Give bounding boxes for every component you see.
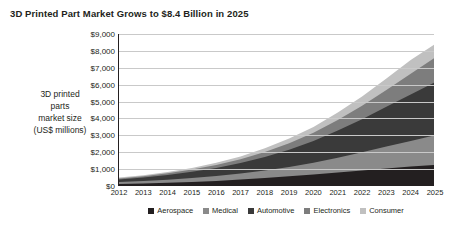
grid-line (119, 169, 434, 170)
legend-item-automotive[interactable]: Automotive (248, 206, 295, 215)
plot-area: $0$1,000$2,000$3,000$4,000$5,000$6,000$7… (118, 34, 434, 186)
x-axis-tick-label: 2025 (427, 185, 444, 197)
x-axis-tick-label: 2021 (329, 185, 346, 197)
x-axis-tick-label: 2014 (159, 185, 176, 197)
y-axis-label-line-3: market size (24, 112, 96, 124)
y-axis-tick-label: $9,000 (91, 30, 119, 39)
x-axis-tick-label: 2019 (281, 185, 298, 197)
x-axis-tick-label: 2023 (378, 185, 395, 197)
legend-label: Medical (212, 206, 238, 215)
chart-container: 3D Printed Part Market Grows to $8.4 Bil… (0, 0, 462, 242)
legend-label: Electronics (313, 206, 350, 215)
y-axis-tick-label: $3,000 (91, 131, 119, 140)
legend-swatch-icon (360, 208, 366, 214)
legend-item-medical[interactable]: Medical (203, 206, 238, 215)
x-axis-tick-label: 2020 (305, 185, 322, 197)
y-axis-tick-label: $5,000 (91, 97, 119, 106)
y-axis-label-line-2: parts (24, 100, 96, 112)
legend-swatch-icon (304, 208, 310, 214)
x-axis-tick-label: 2013 (135, 185, 152, 197)
y-axis-tick-label: $6,000 (91, 80, 119, 89)
plot-inner (119, 34, 434, 185)
grid-line (119, 68, 434, 69)
grid-line (119, 85, 434, 86)
y-axis-tick-label: $7,000 (91, 63, 119, 72)
y-axis-label-line-4: (US$ millions) (24, 124, 96, 136)
legend-item-aerospace[interactable]: Aerospace (148, 206, 193, 215)
y-axis-label: 3D printed parts market size (US$ millio… (24, 88, 96, 136)
x-axis-tick-label: 2016 (208, 185, 225, 197)
grid-line (119, 152, 434, 153)
grid-line (119, 118, 434, 119)
legend-label: Aerospace (157, 206, 193, 215)
y-axis-tick-label: $1,000 (91, 165, 119, 174)
legend-item-electronics[interactable]: Electronics (304, 206, 350, 215)
chart-title: 3D Printed Part Market Grows to $8.4 Bil… (10, 8, 249, 19)
stacked-area-series (119, 34, 434, 185)
y-axis-tick-label: $4,000 (91, 114, 119, 123)
legend-label: Automotive (257, 206, 295, 215)
x-axis-tick-label: 2024 (402, 185, 419, 197)
grid-line (119, 135, 434, 136)
y-axis-tick-label: $8,000 (91, 46, 119, 55)
y-axis-label-line-1: 3D printed (24, 88, 96, 100)
x-axis-tick-label: 2015 (184, 185, 201, 197)
x-axis-tick-label: 2017 (232, 185, 249, 197)
grid-line (119, 51, 434, 52)
grid-line (119, 34, 434, 35)
x-axis-tick-label: 2022 (354, 185, 371, 197)
legend-item-consumer[interactable]: Consumer (360, 206, 404, 215)
x-axis-tick-label: 2018 (257, 185, 274, 197)
legend-label: Consumer (369, 206, 404, 215)
x-axis-tick-label: 2012 (111, 185, 128, 197)
y-axis-tick-label: $2,000 (91, 148, 119, 157)
legend-swatch-icon (203, 208, 209, 214)
chart-legend: AerospaceMedicalAutomotiveElectronicsCon… (118, 206, 434, 215)
grid-line (119, 102, 434, 103)
legend-swatch-icon (248, 208, 254, 214)
legend-swatch-icon (148, 208, 154, 214)
